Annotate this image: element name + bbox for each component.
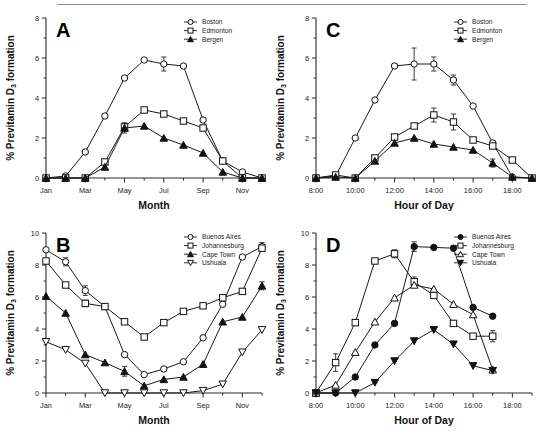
legend-label: Cape Town bbox=[202, 251, 235, 259]
data-point-filled-inv-triangle bbox=[430, 327, 438, 334]
x-tick-label: 10:00 bbox=[346, 186, 365, 195]
y-tick-label: 4 bbox=[35, 94, 39, 103]
y-tick-label: 2 bbox=[305, 134, 309, 143]
data-point-filled-triangle bbox=[489, 159, 497, 166]
data-point-open-square bbox=[490, 143, 496, 149]
x-tick-label: Sep bbox=[197, 186, 210, 195]
y-tick-label: 6 bbox=[305, 54, 309, 63]
legend: Buenos AiresJohannesburgCape TownUshuaia bbox=[184, 233, 244, 266]
data-point-open-square bbox=[200, 303, 206, 309]
y-tick-label: 0 bbox=[305, 174, 309, 183]
data-point-open-circle bbox=[372, 97, 378, 103]
x-tick-label: 16:00 bbox=[464, 401, 483, 410]
data-point-filled-circle bbox=[431, 244, 437, 250]
data-point-open-square bbox=[220, 295, 226, 301]
series-cape-town bbox=[42, 282, 266, 389]
data-point-open-circle bbox=[121, 351, 127, 357]
axis-lines bbox=[46, 18, 262, 178]
data-point-open-circle bbox=[431, 61, 437, 67]
data-point-open-circle bbox=[102, 113, 108, 119]
series-bergen bbox=[312, 134, 536, 181]
data-point-filled-inv-triangle bbox=[371, 379, 379, 386]
data-point-open-circle bbox=[239, 254, 245, 260]
y-axis-title: % Previtamin D3 formation bbox=[275, 250, 287, 376]
legend-marker-open-square bbox=[458, 28, 463, 33]
x-tick-label: May bbox=[118, 186, 132, 195]
legend-label: Ushuaia bbox=[472, 259, 497, 266]
data-point-open-square bbox=[391, 251, 397, 257]
x-tick-label: Jan bbox=[40, 186, 52, 195]
series-boston bbox=[313, 48, 535, 181]
data-point-open-square bbox=[470, 333, 476, 339]
legend-label: Boston bbox=[202, 18, 223, 25]
data-point-filled-circle bbox=[411, 243, 417, 249]
x-tick-label: Jul bbox=[159, 401, 169, 410]
data-point-filled-triangle bbox=[199, 149, 207, 156]
legend-label: Bergen bbox=[472, 36, 494, 44]
data-point-open-circle bbox=[141, 371, 147, 377]
data-point-open-triangle bbox=[351, 349, 359, 356]
y-tick-label: 8 bbox=[305, 14, 309, 23]
x-tick-label: 18:00 bbox=[503, 401, 522, 410]
data-point-open-square bbox=[490, 333, 496, 339]
data-point-open-square bbox=[509, 157, 515, 163]
x-tick-label: 18:00 bbox=[503, 186, 522, 195]
panel-b: 0246810JanMarMayJulSepNovMonth% Previtam… bbox=[0, 215, 270, 434]
y-tick-label: 0 bbox=[35, 389, 39, 398]
legend: BostonEdmontonBergen bbox=[454, 18, 502, 43]
data-point-open-circle bbox=[180, 359, 186, 365]
data-point-open-square bbox=[431, 112, 437, 118]
series-ushuaia bbox=[42, 327, 266, 397]
x-tick-label: 10:00 bbox=[346, 401, 365, 410]
data-point-open-inv-triangle bbox=[81, 360, 89, 367]
y-tick-label: 4 bbox=[305, 94, 309, 103]
data-point-open-square bbox=[431, 292, 437, 298]
data-point-open-square bbox=[470, 137, 476, 143]
data-point-filled-triangle bbox=[140, 382, 148, 389]
legend-marker-open-circle bbox=[188, 20, 193, 25]
data-point-open-circle bbox=[82, 149, 88, 155]
y-tick-label: 2 bbox=[35, 134, 39, 143]
data-point-open-square bbox=[220, 158, 226, 164]
series-line bbox=[316, 138, 532, 178]
legend-marker-open-square bbox=[188, 243, 193, 248]
x-axis-title: Hour of Day bbox=[394, 414, 454, 426]
data-point-filled-circle bbox=[470, 304, 476, 310]
panel-a: 02468JanMarMayJulSepNovMonth% Previtamin… bbox=[0, 0, 270, 219]
data-point-filled-triangle bbox=[81, 351, 89, 358]
panel-letter: A bbox=[56, 19, 70, 41]
data-point-filled-triangle bbox=[258, 282, 266, 289]
y-tick-label: 8 bbox=[305, 261, 309, 270]
legend-label: Edmonton bbox=[472, 27, 502, 34]
series-edmonton bbox=[43, 107, 265, 181]
data-point-filled-triangle bbox=[430, 140, 438, 147]
data-point-open-square bbox=[259, 245, 265, 251]
data-point-filled-triangle bbox=[199, 361, 207, 368]
y-tick-label: 2 bbox=[35, 357, 39, 366]
data-point-open-circle bbox=[180, 63, 186, 69]
data-point-open-square bbox=[161, 319, 167, 325]
series-line bbox=[46, 126, 262, 178]
x-tick-label: 12:00 bbox=[385, 186, 404, 195]
data-point-filled-triangle bbox=[160, 134, 168, 141]
legend-label: Buenos Aires bbox=[202, 233, 242, 240]
legend-label: Edmonton bbox=[202, 27, 232, 34]
series-line bbox=[46, 286, 262, 386]
y-tick-label: 6 bbox=[35, 54, 39, 63]
data-point-open-inv-triangle bbox=[42, 339, 50, 346]
x-tick-label: Nov bbox=[236, 401, 249, 410]
y-axis-title: % Previtamin D3 formation bbox=[5, 250, 17, 376]
data-point-open-circle bbox=[43, 247, 49, 253]
data-point-open-square bbox=[141, 334, 147, 340]
data-point-open-square bbox=[239, 288, 245, 294]
series-line bbox=[316, 330, 493, 393]
x-axis-title: Hour of Day bbox=[394, 199, 454, 211]
x-axis-title: Month bbox=[138, 414, 170, 426]
y-axis-title: % Previtamin D3 formation bbox=[5, 35, 17, 161]
legend-label: Buenos Aires bbox=[472, 233, 512, 240]
y-tick-label: 0 bbox=[305, 389, 309, 398]
data-point-open-circle bbox=[220, 301, 226, 307]
series-line bbox=[316, 254, 493, 393]
data-point-open-square bbox=[102, 303, 108, 309]
panel-letter: D bbox=[326, 234, 340, 256]
